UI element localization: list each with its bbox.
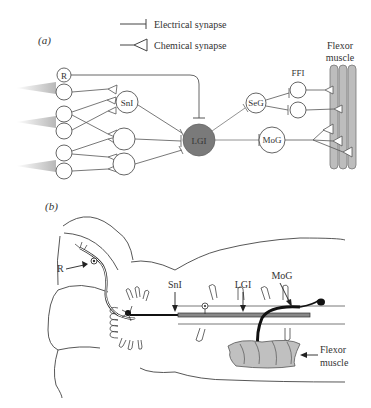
lgi-label: LGI: [192, 136, 207, 146]
b-label-muscle-2: muscle: [320, 357, 349, 368]
b-label-lgi: LGI: [235, 279, 252, 290]
lgi-axon: [178, 313, 310, 317]
panel-b: (b): [45, 200, 349, 398]
b-label-r: R: [57, 263, 64, 274]
stimulus-wedge-2: [16, 116, 56, 128]
legend-chemical: Chemical synapse: [154, 40, 227, 51]
mog-cell-body: [317, 299, 325, 306]
flexor-muscle: [228, 340, 300, 368]
stimulus-wedge-3: [16, 160, 56, 172]
muscle-label-line1: Flexor: [327, 40, 354, 51]
panel-b-label: (b): [45, 200, 58, 213]
seg-label: SeG: [248, 98, 264, 108]
fast-flexor-neuron-1: [290, 82, 306, 98]
legend-electrical: Electrical synapse: [154, 19, 227, 30]
b-label-muscle-1: Flexor: [320, 344, 347, 355]
b-label-mog: MoG: [271, 270, 292, 281]
crayfish-escape-circuit-figure: (a) Electrical synapse Chemical synapse …: [0, 0, 371, 408]
chemical-synapse-icon: [134, 39, 147, 51]
sensory-interneuron-label: SnI: [121, 98, 134, 108]
mog-label: MoG: [262, 135, 282, 145]
ffi-label: FFI: [291, 68, 304, 78]
receptor-label: R: [61, 71, 67, 81]
b-label-sni: SnI: [168, 279, 182, 290]
muscle-label-line2: muscle: [326, 52, 355, 63]
legend: Electrical synapse Chemical synapse: [120, 19, 227, 51]
panel-a: (a) Electrical synapse Chemical synapse …: [16, 19, 356, 179]
fast-flexor-neuron-2: [290, 102, 306, 118]
stimulus-wedge-1: [16, 82, 56, 94]
panel-a-label: (a): [38, 34, 51, 47]
